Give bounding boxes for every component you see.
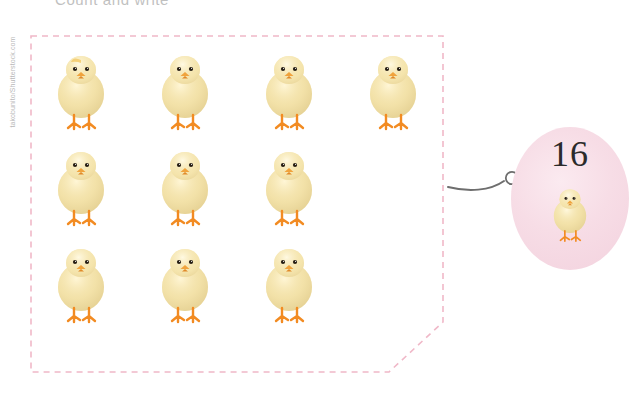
chick-cell[interactable] xyxy=(151,142,219,227)
page-title: Count and write xyxy=(55,0,255,5)
chick-icon xyxy=(255,142,323,227)
chick-cell[interactable] xyxy=(255,142,323,227)
chick-cell[interactable] xyxy=(255,46,323,131)
chick-row-3 xyxy=(47,239,323,324)
bubble-chick-icon xyxy=(545,180,595,244)
answer-bubble[interactable]: 16 xyxy=(511,127,629,270)
chick-cell[interactable] xyxy=(151,46,219,131)
chick-cell[interactable] xyxy=(255,239,323,324)
answer-number: 16 xyxy=(511,135,629,173)
chick-row-2 xyxy=(47,142,323,227)
chick-icon xyxy=(47,239,115,324)
chick-icon xyxy=(255,46,323,131)
chick-cell[interactable] xyxy=(47,142,115,227)
chick-cell[interactable] xyxy=(47,46,115,131)
chick-icon xyxy=(47,142,115,227)
chick-cell[interactable] xyxy=(151,239,219,324)
chick-icon xyxy=(151,142,219,227)
chick-grid xyxy=(27,32,447,376)
chick-icon xyxy=(151,239,219,324)
leader-line-path xyxy=(448,181,504,190)
chick-cell[interactable] xyxy=(359,46,427,131)
chick-icon xyxy=(151,46,219,131)
chick-row-1 xyxy=(47,46,427,131)
worksheet-canvas: Count and write takobunito/Shutterstock.… xyxy=(0,0,629,399)
chick-icon xyxy=(47,46,115,131)
watermark-text: takobunito/Shutterstock.com xyxy=(9,27,19,137)
chick-icon xyxy=(359,46,427,131)
chick-cell[interactable] xyxy=(47,239,115,324)
chick-icon xyxy=(255,239,323,324)
